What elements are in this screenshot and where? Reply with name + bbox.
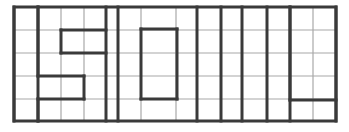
grid-border	[14, 7, 336, 121]
soil-grid-puzzle	[0, 0, 349, 132]
thick-lines	[14, 7, 336, 121]
thin-grid-lines	[14, 7, 336, 121]
grid-diagram	[0, 0, 349, 132]
